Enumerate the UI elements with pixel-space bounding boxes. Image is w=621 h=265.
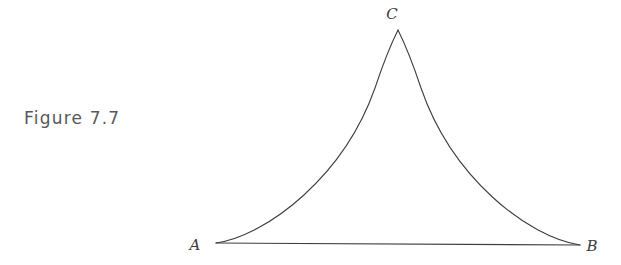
curvilinear-triangle-figure: A B C: [0, 0, 621, 265]
edge-ac-curve: [216, 30, 398, 243]
vertex-label-c: C: [386, 5, 398, 23]
vertex-label-b: B: [585, 237, 597, 255]
vertex-label-a: A: [188, 236, 201, 254]
edge-cb-curve: [398, 30, 580, 245]
figure-canvas: Figure 7.7 A B C: [0, 0, 621, 265]
edge-ab-baseline: [216, 243, 580, 245]
